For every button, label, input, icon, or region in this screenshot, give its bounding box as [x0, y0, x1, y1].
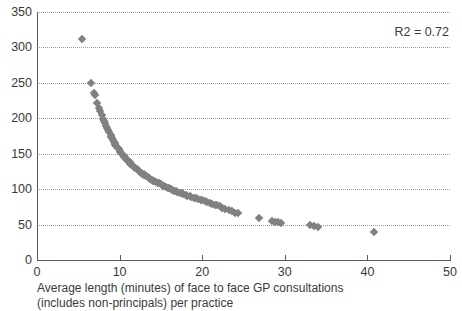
y-axis-tick-label: 50 — [18, 219, 32, 232]
data-point — [86, 79, 94, 87]
x-axis-tick-label: 0 — [17, 266, 57, 279]
r-squared-annotation: R2 = 0.72 — [394, 25, 449, 39]
y-axis-tick-label: 200 — [11, 112, 32, 125]
x-axis-caption: Average length (minutes) of face to face… — [37, 281, 437, 311]
y-axis-tick-label: 150 — [11, 148, 32, 161]
data-point — [277, 219, 285, 227]
plot-area — [37, 12, 450, 260]
x-axis-tick-label: 10 — [100, 266, 140, 279]
y-axis-tick-label: 100 — [11, 183, 32, 196]
y-axis-tick-label: 300 — [11, 41, 32, 54]
x-axis-tick-label: 50 — [430, 266, 462, 279]
y-axis-tick-label: 350 — [11, 6, 32, 19]
x-axis-caption-line-1: Average length (minutes) of face to face… — [37, 281, 437, 296]
x-axis-tick-label: 30 — [265, 266, 305, 279]
y-axis-tick-label: 250 — [11, 77, 32, 90]
y-axis-tick-label: 0 — [25, 254, 32, 267]
data-point — [77, 35, 85, 43]
x-axis-tick-label: 20 — [182, 266, 222, 279]
x-axis-caption-line-2: (includes non-principals) per practice — [37, 296, 437, 311]
x-axis-tick — [450, 255, 451, 261]
x-axis-tick-label: 40 — [347, 266, 387, 279]
data-point — [255, 214, 263, 222]
data-point — [370, 227, 378, 235]
x-axis-line — [37, 260, 450, 261]
